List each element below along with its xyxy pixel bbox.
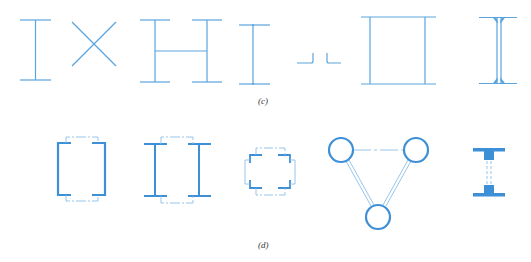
- tube-right-icon: [404, 138, 428, 162]
- tube-left-icon: [329, 138, 353, 162]
- laced-channel-pair-icon: [58, 137, 105, 201]
- box-section-icon: [361, 17, 436, 84]
- structural-sections-figure: [0, 0, 531, 262]
- row-c: [20, 17, 517, 85]
- single-i-section-icon: [20, 20, 51, 80]
- rolled-i-section-icon: [479, 18, 517, 84]
- row-d: [58, 137, 505, 229]
- heavy-tee-pair-icon: [473, 148, 505, 197]
- laced-i-pair-icon: [144, 137, 211, 203]
- laced-four-angle-section-icon: [245, 148, 295, 195]
- h-built-up-section-icon: [140, 20, 222, 82]
- row-d-label: (d): [258, 240, 269, 250]
- x-bracing-icon: [72, 22, 116, 66]
- tube-bottom-icon: [366, 205, 390, 229]
- narrow-i-section-icon: [239, 24, 270, 85]
- triangular-tube-column-icon: [329, 138, 428, 229]
- double-angle-section-icon: [297, 53, 341, 63]
- row-c-label: (c): [258, 96, 268, 106]
